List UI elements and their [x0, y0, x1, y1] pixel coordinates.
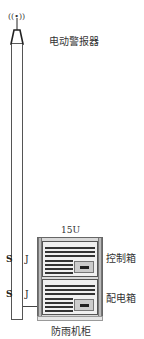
power-box-label: 配电箱 — [106, 290, 136, 305]
rain-proof-cabinet — [37, 237, 103, 317]
siren-pole — [11, 44, 23, 320]
control-box-label: 控制箱 — [106, 250, 136, 265]
alarm-label: 电动警报器 — [49, 33, 99, 48]
clamp-icon: J — [25, 254, 29, 264]
cabinet-base — [37, 316, 103, 321]
control-box-unit — [42, 241, 98, 277]
rack-units-label: 15U — [61, 225, 80, 235]
cabinet-label: 防雨机柜 — [51, 323, 91, 338]
power-box-unit — [42, 279, 98, 315]
hook-icon: S — [6, 289, 13, 299]
cable-line — [23, 306, 38, 307]
siren-head-icon — [9, 16, 27, 46]
clamp-icon: J — [25, 289, 29, 299]
hook-icon: S — [6, 254, 13, 264]
